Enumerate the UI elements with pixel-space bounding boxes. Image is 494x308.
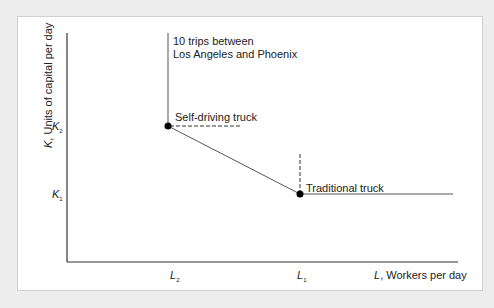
isoquant-label-line2: Los Angeles and Phoenix: [173, 48, 297, 61]
self-driving-label: Self-driving truck: [175, 111, 257, 124]
isoquant-label-line1: 10 trips between: [173, 35, 254, 48]
x-tick-l2: L2: [170, 269, 179, 287]
x-tick-l1: L1: [297, 269, 306, 287]
self-driving-point: [165, 123, 172, 130]
y-tick-k2: K2: [52, 120, 63, 138]
y-tick-k1: K1: [52, 188, 63, 206]
x-axis-label: L, Workers per day: [374, 269, 467, 282]
traditional-point: [297, 191, 304, 198]
traditional-label: Traditional truck: [306, 182, 384, 195]
isoquant-sloped-segment: [168, 126, 300, 194]
